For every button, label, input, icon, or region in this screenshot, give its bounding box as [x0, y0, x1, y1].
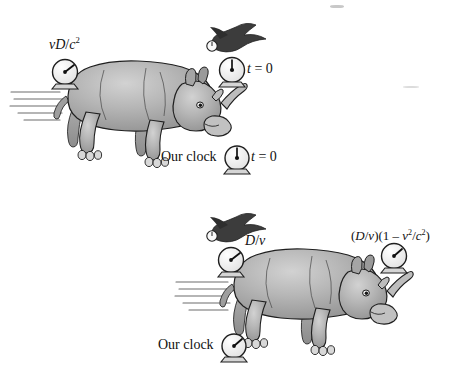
- rear-clock: [52, 60, 78, 90]
- bottom-rear-clock-label: D/v: [245, 234, 265, 248]
- top-panel-artwork: [0, 0, 459, 190]
- rear-clock: [218, 248, 244, 278]
- top-our-clock-reading: t = 0: [251, 150, 277, 164]
- rhino-snout: [204, 116, 231, 136]
- front-clock: [381, 244, 407, 274]
- bottom-our-clock-name: Our clock: [158, 338, 214, 352]
- bottom-panel-artwork: [0, 190, 459, 373]
- rhino-tail: [220, 284, 235, 307]
- bird-flying-with-clock: [207, 23, 266, 52]
- rhino-snout: [370, 304, 397, 324]
- rhino-horn-main: [387, 272, 413, 298]
- our-clock: [221, 334, 247, 362]
- relativity-rhino-figure: vD/c2 t = 0 Our clock t = 0: [0, 0, 459, 373]
- top-front-clock-label: t = 0: [247, 62, 273, 76]
- rhino-ear-near: [186, 69, 197, 86]
- rhino-ear-near: [352, 257, 363, 274]
- top-panel: vD/c2 t = 0 Our clock t = 0: [0, 0, 459, 190]
- bottom-front-clock-label: (D/v)(1 – v2/c2): [351, 229, 430, 242]
- top-rear-clock-label: vD/c2: [49, 36, 80, 52]
- top-rear-clock-label-text: vD/c2: [49, 37, 80, 52]
- our-clock: [224, 146, 250, 174]
- bottom-panel: D/v (D/v)(1 – v2/c2) Our clock: [0, 190, 459, 373]
- front-clock: [219, 58, 245, 88]
- top-our-clock-name: Our clock: [161, 150, 217, 164]
